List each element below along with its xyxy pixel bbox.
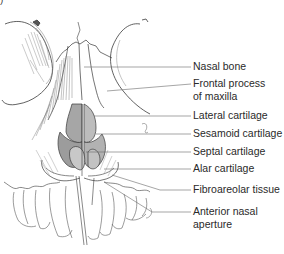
label-text-line2: of maxilla: [193, 90, 265, 103]
label-text-line1: Frontal process: [193, 77, 265, 90]
label-nasal-bone: Nasal bone: [193, 60, 246, 73]
label-text: Fibroareolar tissue: [193, 183, 280, 195]
label-text: Nasal bone: [193, 60, 246, 72]
leader-fibroareolar-tissue: [112, 175, 191, 190]
label-text: Alar cartilage: [193, 162, 254, 174]
label-text: Lateral cartilage: [193, 109, 268, 121]
label-fibroareolar-tissue: Fibroareolar tissue: [193, 183, 280, 196]
leader-anterior-nasal-aperture: [104, 182, 191, 212]
label-sesamoid-cartilage: Sesamoid cartilage: [193, 127, 282, 140]
frontal-bone-contour: [56, 22, 112, 62]
label-text-line2: aperture: [193, 218, 258, 231]
label-lateral-cartilage: Lateral cartilage: [193, 109, 268, 122]
label-text: Septal cartilage: [193, 145, 265, 157]
label-septal-cartilage: Septal cartilage: [193, 145, 265, 158]
label-text: Sesamoid cartilage: [193, 127, 282, 139]
left-orbit-hatching: [22, 32, 49, 82]
label-frontal-process-of-maxilla: Frontal process of maxilla: [193, 77, 265, 103]
lateral-cartilage-shape: [66, 104, 96, 143]
anatomy-figure: ): [0, 0, 284, 254]
left-orbit: [2, 20, 53, 105]
label-alar-cartilage: Alar cartilage: [193, 162, 254, 175]
label-anterior-nasal-aperture: Anterior nasal aperture: [193, 205, 258, 231]
label-text-line1: Anterior nasal: [193, 205, 258, 218]
right-orbit: [111, 19, 151, 114]
leader-frontal-process: [107, 84, 191, 91]
